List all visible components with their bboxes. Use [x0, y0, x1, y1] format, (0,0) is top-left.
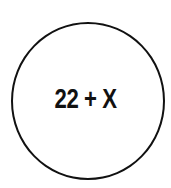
circle-label: 22 + X [15, 84, 155, 114]
